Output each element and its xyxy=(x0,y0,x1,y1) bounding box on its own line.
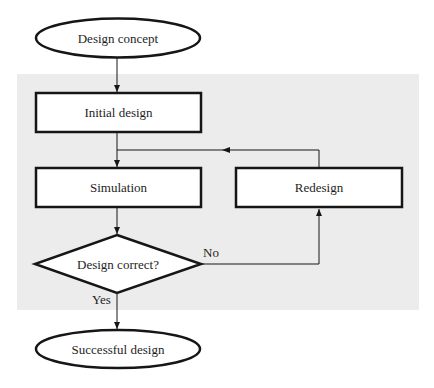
node-redesign[interactable]: Redesign xyxy=(236,168,402,207)
node-initial-design[interactable]: Initial design xyxy=(36,93,201,132)
node-design-concept[interactable]: Design concept xyxy=(36,19,200,58)
node-design-concept-label: Design concept xyxy=(78,31,159,46)
node-successful-design-label: Successful design xyxy=(72,342,165,357)
node-initial-design-label: Initial design xyxy=(84,105,153,120)
flowchart-canvas: Design concept Initial design Simulation… xyxy=(0,0,434,388)
node-simulation-label: Simulation xyxy=(90,180,148,195)
node-successful-design[interactable]: Successful design xyxy=(36,330,200,368)
edge-no-label: No xyxy=(203,245,219,260)
node-design-correct-label: Design correct? xyxy=(77,257,159,272)
node-simulation[interactable]: Simulation xyxy=(36,168,201,207)
node-redesign-label: Redesign xyxy=(295,180,344,195)
edge-yes-label: Yes xyxy=(92,292,111,307)
